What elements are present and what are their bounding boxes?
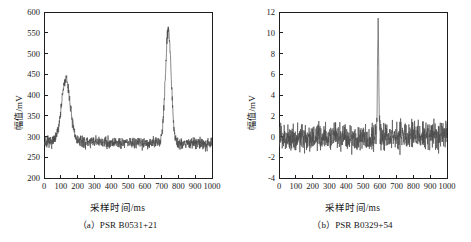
svg-text:500: 500 (27, 49, 40, 59)
y-axis-title-a: 幅值/mV (12, 95, 25, 130)
svg-text:350: 350 (27, 111, 40, 121)
svg-text:400: 400 (105, 181, 118, 191)
svg-text:6: 6 (271, 69, 275, 79)
svg-text:600: 600 (27, 7, 40, 17)
svg-text:200: 200 (27, 173, 40, 183)
svg-text:100: 100 (54, 181, 67, 191)
svg-text:10: 10 (267, 28, 276, 38)
plot-b: 01002003004005006007008009001000-4-20246… (235, 0, 470, 200)
svg-text:0: 0 (271, 132, 275, 142)
svg-text:600: 600 (138, 181, 151, 191)
svg-text:700: 700 (155, 181, 168, 191)
svg-text:550: 550 (27, 28, 40, 38)
svg-text:500: 500 (357, 181, 370, 191)
panel-b: 01002003004005006007008009001000-4-20246… (235, 0, 470, 242)
svg-text:700: 700 (390, 181, 403, 191)
svg-text:800: 800 (407, 181, 420, 191)
svg-text:-4: -4 (268, 173, 276, 183)
x-axis-title-b: 采样时间/ms (235, 200, 470, 214)
x-axis-title-a: 采样时间/ms (0, 200, 235, 214)
svg-text:300: 300 (323, 181, 336, 191)
svg-text:250: 250 (27, 152, 40, 162)
svg-text:200: 200 (71, 181, 84, 191)
svg-text:400: 400 (27, 90, 40, 100)
y-axis-title-b: 幅值/mV (245, 95, 258, 130)
svg-text:8: 8 (271, 49, 275, 59)
svg-text:1000: 1000 (439, 181, 456, 191)
caption-b: （b）PSR B0329+54 (235, 218, 470, 231)
svg-text:1000: 1000 (204, 181, 221, 191)
svg-text:12: 12 (267, 7, 276, 17)
svg-text:0: 0 (42, 181, 46, 191)
svg-text:0: 0 (277, 181, 281, 191)
svg-text:300: 300 (27, 132, 40, 142)
svg-text:900: 900 (189, 181, 202, 191)
svg-text:4: 4 (271, 90, 276, 100)
svg-text:100: 100 (289, 181, 302, 191)
plot-a: 0100200300400500600700800900100020025030… (0, 0, 235, 200)
pulsar-profile-figure: 0100200300400500600700800900100020025030… (0, 0, 471, 242)
svg-text:450: 450 (27, 69, 40, 79)
svg-text:200: 200 (306, 181, 319, 191)
svg-text:600: 600 (373, 181, 386, 191)
svg-text:900: 900 (424, 181, 437, 191)
svg-text:400: 400 (340, 181, 353, 191)
svg-text:500: 500 (122, 181, 135, 191)
svg-text:2: 2 (271, 111, 275, 121)
svg-text:300: 300 (88, 181, 101, 191)
panel-a: 0100200300400500600700800900100020025030… (0, 0, 235, 242)
caption-a: （a）PSR B0531+21 (0, 218, 235, 231)
svg-text:-2: -2 (268, 152, 275, 162)
svg-text:800: 800 (172, 181, 185, 191)
